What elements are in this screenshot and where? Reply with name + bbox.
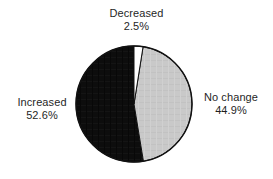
pie-label-no-change-value: 44.9%	[191, 104, 271, 117]
pie-slice-no-change	[134, 47, 192, 162]
pie-slice-increased	[76, 46, 143, 162]
pie-label-decreased-name: Decreased	[0, 7, 273, 20]
pie-label-increased: Increased 52.6%	[4, 96, 80, 121]
pie-label-increased-name: Increased	[4, 96, 80, 109]
pie-label-decreased: Decreased 2.5%	[0, 7, 273, 32]
pie-label-no-change: No change 44.9%	[191, 91, 271, 116]
pie-label-increased-value: 52.6%	[4, 109, 80, 122]
pie-label-no-change-name: No change	[191, 91, 271, 104]
pie-chart-figure: Decreased 2.5% Increased 52.6% No change…	[0, 0, 273, 179]
pie-label-decreased-value: 2.5%	[0, 20, 273, 33]
